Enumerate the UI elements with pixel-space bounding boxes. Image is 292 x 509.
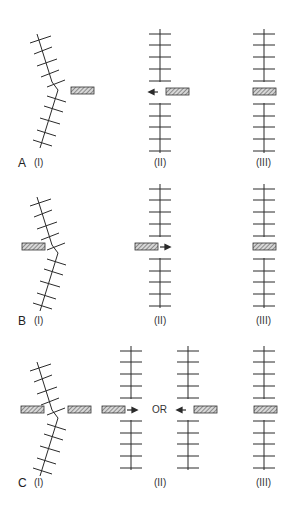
row-a-panel-ii [149,29,189,153]
row-letter: B [18,315,26,327]
hatched-block [253,88,276,95]
hatched-block [102,406,125,413]
panel-label: (III) [256,316,271,326]
row-letter: C [18,477,27,489]
row-c-panel-i [21,362,91,476]
row-a-panel-i [30,34,94,148]
hatched-block-left [21,406,44,413]
hatched-block-right [68,406,91,413]
panel-label: (III) [256,478,271,488]
hatched-block [166,88,189,95]
row-c-panel-iii [253,346,277,470]
hatched-block [254,406,277,413]
or-label: OR [152,405,167,415]
panel-label: (I) [34,316,43,326]
row-a-panel-iii [253,29,276,153]
row-letter: A [18,157,26,169]
panel-label: (III) [256,158,271,168]
row-b-panel-ii [135,184,171,308]
bent-chain [30,362,66,476]
row-b-panel-i [22,197,66,311]
panel-label: (II) [154,158,166,168]
hatched-block [253,243,276,250]
hatched-block [135,243,158,250]
panel-label: (I) [34,158,43,168]
row-b [22,184,276,311]
row-c [21,346,277,476]
hatched-block [194,406,217,413]
bent-chain [30,34,66,148]
panel-label: (II) [154,316,166,326]
panel-label: (I) [34,478,43,488]
hatched-block [22,243,45,250]
panel-label: (II) [154,478,166,488]
row-b-panel-iii [253,184,276,308]
row-a [30,29,276,153]
bent-chain [30,197,66,311]
diagram-canvas [0,0,292,509]
hatched-block [71,87,94,94]
